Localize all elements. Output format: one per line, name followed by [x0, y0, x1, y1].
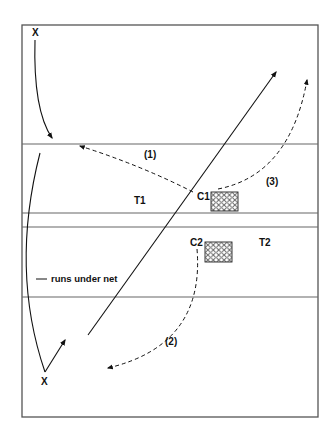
player-path-top — [35, 40, 52, 138]
sequence-label-2: (2) — [165, 336, 177, 347]
ball-cart-c2 — [205, 242, 232, 262]
coach-label-c1: C1 — [197, 191, 210, 202]
ball-path-1 — [80, 146, 193, 192]
target-label-t1: T1 — [134, 195, 146, 206]
player-arrow-bottom — [45, 340, 65, 372]
sequence-label-3: (3) — [266, 176, 278, 187]
annotation-runs-under-net: runs under net — [51, 273, 118, 284]
run-under-net-path — [26, 153, 45, 372]
coach-label-c2: C2 — [190, 237, 203, 248]
court-diagram: X X C1 C2 T1 T2 (1) (2) (3) runs under n… — [0, 0, 336, 440]
diagonal-run-path — [88, 72, 276, 335]
player-label-bottom: X — [41, 376, 48, 387]
sequence-label-1: (1) — [144, 149, 156, 160]
player-label-top: X — [32, 27, 39, 38]
target-label-t2: T2 — [259, 237, 271, 248]
ball-path-2 — [108, 249, 198, 368]
ball-cart-c1 — [211, 192, 238, 211]
